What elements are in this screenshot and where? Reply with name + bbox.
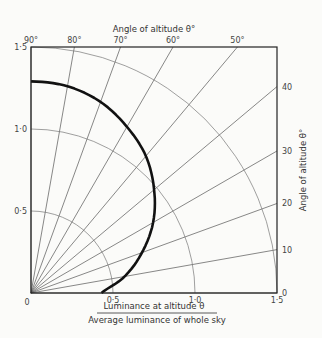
x-tick-label: 1·0 [189, 296, 202, 305]
right-angle-label-10: 10 [282, 246, 292, 255]
top-angle-label-70: 70° [113, 36, 127, 45]
x-tick-label: 0·5 [107, 296, 120, 305]
y-tick-label: 0·5 [14, 207, 27, 216]
top-angle-label-60: 60° [166, 36, 180, 45]
radial-line-70 [31, 47, 121, 293]
top-angle-label-80: 80° [67, 36, 81, 45]
right-angle-label-30: 30 [282, 147, 292, 156]
top-axis-title: Angle of altitude θ° [113, 24, 196, 34]
top-angle-label-50: 50° [230, 36, 244, 45]
right-angle-label-0: 0 [282, 289, 287, 298]
top-angle-label-90: 90° [24, 36, 38, 45]
right-angle-label-20: 20 [282, 199, 292, 208]
right-axis-title: Angle of altitude θ° [298, 129, 308, 212]
polar-luminance-chart: Angle of altitude θ° Angle of altitude θ… [0, 0, 322, 338]
x-tick-label: 0 [24, 298, 29, 307]
right-angle-label-40: 40 [282, 83, 292, 92]
x-axis-title-denominator: Average luminance of whole sky [88, 315, 225, 325]
y-tick-label: 1·0 [14, 125, 27, 134]
